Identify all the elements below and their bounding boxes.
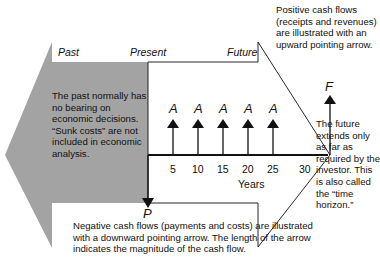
annuity-label: A (244, 101, 253, 116)
annuity-label: A (269, 101, 278, 116)
annuity-label: A (194, 101, 203, 116)
future-label: Future (227, 46, 257, 58)
past-label: Past (58, 46, 79, 58)
future-note: The future extends only as far as requir… (316, 118, 380, 211)
future-arrow (148, 42, 330, 247)
past-note: The past normally has no bearing on econ… (52, 90, 147, 160)
axis-tick-label: 10 (192, 163, 204, 175)
axis-tick-label: 30 (299, 163, 311, 175)
years-axis-label: Years (238, 178, 264, 190)
axis-tick-label: 20 (242, 163, 254, 175)
axis-tick-label: 5 (170, 163, 176, 175)
axis-tick-label: 25 (267, 163, 279, 175)
present-label: Present (130, 46, 166, 58)
future-value-arrow-head (324, 95, 336, 104)
negative-cash-flow-note: Negative cash flows (payments and costs)… (73, 220, 313, 255)
future-value-label: F (325, 79, 333, 94)
axis-tick-label: 15 (217, 163, 229, 175)
positive-cash-flow-note: Positive cash flows (receipts and revenu… (276, 4, 380, 50)
annuity-label: A (169, 101, 178, 116)
annuity-label: A (219, 101, 228, 116)
present-value-label: P (143, 206, 152, 221)
